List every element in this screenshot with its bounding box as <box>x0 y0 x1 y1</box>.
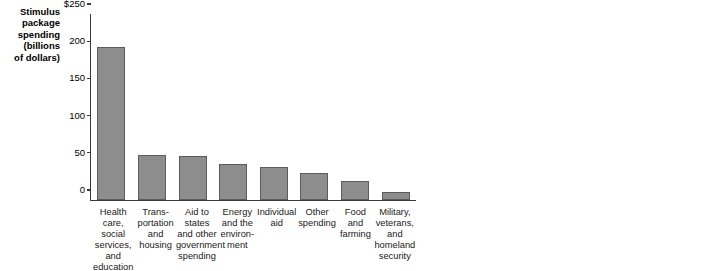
y-tick-label: 200 <box>69 35 85 46</box>
plot-area-stimulus: 0 50 100 150 200 $250 Health care, socia… <box>90 14 416 201</box>
y-tick-200: 200 <box>69 36 91 46</box>
bar-health-care <box>97 47 125 200</box>
bar-series-stimulus <box>91 14 416 200</box>
stimulus-and-tax-cuts-bar-charts: Stimulus package spending (billions of d… <box>0 0 702 271</box>
x-label-health-care: Health care, social services, and educat… <box>91 207 135 271</box>
bar-energy-environment <box>219 164 247 200</box>
y-tick-0: 0 <box>80 185 91 195</box>
x-label-other-spending: Other spending <box>297 207 337 229</box>
y-tick-label: 0 <box>80 184 85 195</box>
y-tick-label: 100 <box>69 110 85 121</box>
bar-column <box>138 14 166 200</box>
bar-individual-aid <box>260 167 288 200</box>
bar-column <box>300 14 328 200</box>
x-label-energy-environment: Energy and the environ- ment <box>218 207 256 251</box>
x-label-military-veterans: Military, veterans, and homeland securit… <box>374 207 416 262</box>
x-axis-labels-stimulus: Health care, social services, and educat… <box>91 200 416 271</box>
chart-title-stimulus: Stimulus package spending (billions of d… <box>0 6 60 63</box>
y-tick-label: 50 <box>74 147 85 158</box>
x-label-transportation: Trans- portation and housing <box>136 207 176 251</box>
y-tick-250: $250 <box>64 0 91 9</box>
bar-aid-to-states <box>179 156 207 200</box>
bar-column <box>179 14 207 200</box>
bar-column <box>260 14 288 200</box>
bar-column <box>97 14 125 200</box>
chart-panel-stimulus: Stimulus package spending (billions of d… <box>0 0 440 271</box>
bar-transportation <box>138 155 166 200</box>
y-tick-100: 100 <box>69 111 91 121</box>
y-tick-150: 150 <box>69 73 91 83</box>
x-label-aid-to-states: Aid to states and other government spend… <box>176 207 218 262</box>
x-label-food-farming: Food and farming <box>337 207 373 240</box>
bar-food-farming <box>341 181 369 200</box>
bar-other-spending <box>300 173 328 200</box>
bar-column <box>341 14 369 200</box>
x-label-individual-aid: Individual aid <box>257 207 297 229</box>
y-tick-label: 150 <box>69 72 85 83</box>
bar-column <box>382 14 410 200</box>
y-tick-mark <box>87 3 91 4</box>
y-tick-50: 50 <box>74 148 91 158</box>
y-tick-label: $250 <box>64 0 85 9</box>
bar-military-veterans <box>382 192 410 200</box>
chart-panel-tax-cuts: Tax cuts (billions of dollars) 0 50 100 … <box>430 0 702 271</box>
bar-column <box>219 14 247 200</box>
